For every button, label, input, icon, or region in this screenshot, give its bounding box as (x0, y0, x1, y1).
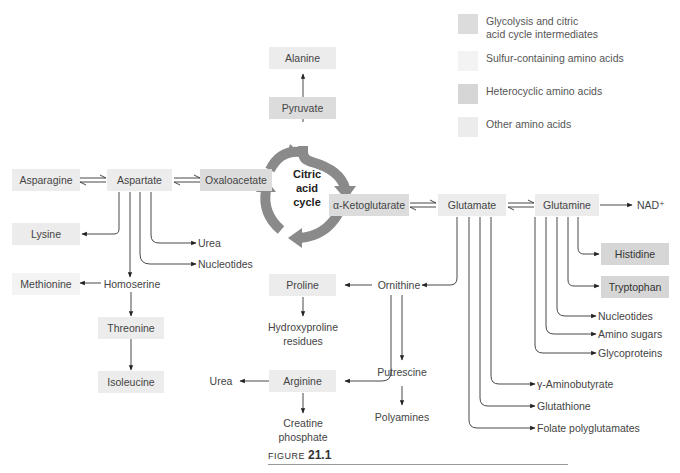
node-alanine: Alanine (269, 47, 336, 69)
node-aspartate: Aspartate (107, 169, 172, 191)
node-lysine: Lysine (12, 223, 80, 245)
figure-caption: FIGURE 21.1 (268, 448, 331, 462)
node-oxaloacetate: Oxaloacetate (200, 169, 272, 191)
node-threonine: Threonine (98, 317, 164, 339)
legend-other: Other amino acids (458, 117, 571, 137)
legend-swatch-sulfur (458, 51, 478, 71)
node-nucleotides-aspartate: Nucleotides (198, 253, 258, 275)
node-glycoproteins: Glycoproteins (598, 342, 678, 364)
reversible-glutamate-glutamine (508, 200, 534, 210)
node-hydroxyproline-residues: Hydroxyprolineresidues (262, 320, 344, 348)
node-glutathione: Glutathione (537, 395, 617, 417)
node-putrescine: Putrescine (372, 361, 432, 383)
node-ketoglutarate: α-Ketoglutarate (329, 194, 409, 216)
legend-label: Other amino acids (486, 117, 571, 131)
node-folate-polyglutamates: Folate polyglutamates (537, 417, 657, 439)
node-pyruvate: Pyruvate (269, 97, 336, 119)
reversible-asparagine-aspartate (80, 175, 106, 185)
node-tryptophan: Tryptophan (601, 276, 669, 298)
node-homoserine: Homoserine (103, 273, 161, 295)
legend-sulfur: Sulfur-containing amino acids (458, 51, 624, 71)
legend-swatch-hetero (458, 84, 478, 104)
node-urea-aspartate: Urea (198, 232, 226, 254)
node-glutamine: Glutamine (535, 194, 599, 216)
reversible-aspartate-oxaloacetate (174, 175, 200, 185)
node-nad: NAD⁺ (634, 194, 668, 216)
node-proline: Proline (269, 274, 336, 296)
legend-label: Glycolysis and citric (486, 15, 598, 28)
legend-label: Sulfur-containing amino acids (486, 51, 624, 65)
legend-hetero: Heterocyclic amino acids (458, 84, 602, 104)
node-arginine: Arginine (269, 370, 336, 392)
node-urea-arginine: Urea (204, 370, 238, 392)
reversible-ketoglutarate-glutamate (410, 200, 436, 210)
legend-glyco: Glycolysis and citricacid cycle intermed… (458, 14, 598, 41)
legend-label: acid cycle intermediates (486, 28, 598, 41)
node-creatine-phosphate: Creatinephosphate (268, 416, 338, 444)
legend-swatch-other (458, 117, 478, 137)
node-asparagine: Asparagine (12, 169, 80, 191)
citric-acid-cycle-label: Citricacidcycle (280, 167, 334, 209)
legend-swatch-glyco (458, 14, 478, 34)
node-methionine: Methionine (12, 273, 80, 295)
node-glutamate: Glutamate (438, 194, 506, 216)
node-ornithine: Ornithine (374, 274, 424, 296)
node-histidine: Histidine (601, 243, 669, 265)
legend-label: Heterocyclic amino acids (486, 84, 602, 98)
node-polyamines: Polyamines (372, 406, 432, 428)
node-gaba: γ-Aminobutyrate (537, 373, 627, 395)
caption-rule (268, 464, 568, 465)
node-isoleucine: Isoleucine (98, 371, 164, 393)
